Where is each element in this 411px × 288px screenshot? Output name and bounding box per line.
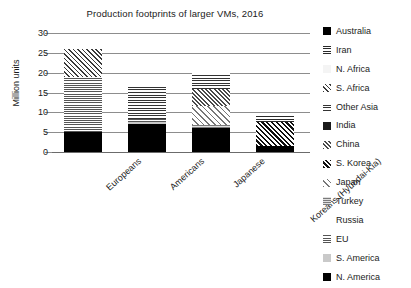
bar-americans[interactable] <box>128 33 166 152</box>
bar-koreans-hyundai-kia[interactable] <box>256 33 294 152</box>
bar-segment-n-america <box>192 128 230 152</box>
legend-item-label: India <box>336 121 356 130</box>
legend-item-label: Other Asia <box>336 103 378 112</box>
legend-item-label: S. America <box>336 254 380 263</box>
chart-legend: AustraliaIranN. AfricaS. AfricaOther Asi… <box>323 22 411 286</box>
bar-segment-s-africa <box>64 49 102 77</box>
legend-swatch-icon <box>323 273 331 281</box>
y-tick-label-20: 20 <box>38 68 48 78</box>
bar-segment-iran <box>256 116 294 122</box>
y-tick-label-0: 0 <box>43 147 48 157</box>
legend-item-n-america[interactable]: N. America <box>323 268 411 287</box>
legend-item-label: Japan <box>336 178 361 187</box>
legend-item-label: S. Africa <box>336 84 370 93</box>
x-tick-label-americans: Americans <box>168 156 206 192</box>
y-axis-label: Million units <box>11 43 21 123</box>
legend-swatch-icon <box>323 84 331 92</box>
y-tick-label-10: 10 <box>38 107 48 117</box>
legend-item-label: EU <box>336 235 349 244</box>
legend-swatch-icon <box>323 27 331 35</box>
legend-item-label: N. Africa <box>336 65 370 74</box>
legend-item-iran[interactable]: Iran <box>323 41 411 60</box>
legend-item-australia[interactable]: Australia <box>323 22 411 41</box>
y-tick-label-15: 15 <box>38 88 48 98</box>
y-tick-label-30: 30 <box>38 28 48 38</box>
bar-segment-n-america <box>256 146 294 152</box>
bar-japanese[interactable] <box>192 33 230 152</box>
legend-item-s-africa[interactable]: S. Africa <box>323 79 411 98</box>
chart-title: Production footprints of larger VMs, 201… <box>40 8 310 19</box>
legend-item-n-africa[interactable]: N. Africa <box>323 60 411 79</box>
legend-item-label: China <box>336 140 360 149</box>
bar-segment-eu <box>64 77 102 133</box>
bar-segment-other-asia <box>128 87 166 119</box>
bar-segment-n-america <box>128 124 166 152</box>
legend-item-india[interactable]: India <box>323 116 411 135</box>
bar-segment-japan <box>192 106 230 126</box>
bar-segment-china <box>192 89 230 106</box>
legend-item-label: Iran <box>336 46 352 55</box>
bar-segment-turkey <box>192 125 230 128</box>
legend-swatch-icon <box>323 65 331 73</box>
legend-item-russia[interactable]: Russia <box>323 211 411 230</box>
legend-swatch-icon <box>323 122 331 130</box>
legend-swatch-icon <box>323 216 331 224</box>
legend-swatch-icon <box>323 235 331 243</box>
legend-item-turkey[interactable]: Turkey <box>323 192 411 211</box>
bar-segment-other-asia <box>192 73 230 89</box>
legend-item-other-asia[interactable]: Other Asia <box>323 98 411 117</box>
y-tick-label-25: 25 <box>38 48 48 58</box>
legend-item-china[interactable]: China <box>323 135 411 154</box>
plot-area: 051015202530 <box>52 33 310 152</box>
legend-item-japan[interactable]: Japan <box>323 173 411 192</box>
legend-swatch-icon <box>323 197 331 205</box>
legend-swatch-icon <box>323 254 331 262</box>
legend-swatch-icon <box>323 46 331 54</box>
legend-item-label: Russia <box>336 216 364 225</box>
legend-item-eu[interactable]: EU <box>323 230 411 249</box>
legend-item-label: Turkey <box>336 197 363 206</box>
bar-europeans[interactable] <box>64 33 102 152</box>
legend-item-label: N. America <box>336 273 380 282</box>
gridline-0: 0 <box>52 152 310 153</box>
legend-swatch-icon <box>323 103 331 111</box>
legend-item-label: S. Korea <box>336 159 371 168</box>
bar-segment-s-america <box>128 122 166 124</box>
legend-item-label: Australia <box>336 27 371 36</box>
stacked-bar-chart: Production footprints of larger VMs, 201… <box>0 0 411 288</box>
legend-item-s-america[interactable]: S. America <box>323 249 411 268</box>
legend-swatch-icon <box>323 160 331 168</box>
legend-item-s-korea[interactable]: S. Korea <box>323 154 411 173</box>
x-tick-label-europeans: Europeans <box>104 156 143 193</box>
bar-segment-s-korea <box>256 122 294 146</box>
legend-swatch-icon <box>323 141 331 149</box>
bar-segment-eu <box>128 119 166 122</box>
y-tick-label-5: 5 <box>43 127 48 137</box>
legend-swatch-icon <box>323 179 331 187</box>
bar-segment-n-america <box>64 132 102 152</box>
x-tick-label-japanese: Japanese <box>231 156 267 190</box>
